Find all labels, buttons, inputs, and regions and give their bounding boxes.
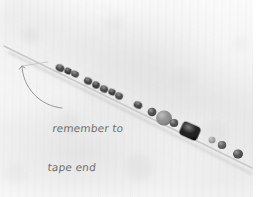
photo-canvas: remember to tape end	[0, 0, 261, 197]
bead-14	[209, 137, 216, 143]
bead-4	[83, 76, 94, 86]
bead-5	[91, 80, 101, 89]
bead-16	[233, 149, 243, 158]
bead-3	[70, 69, 80, 78]
bead-12	[170, 119, 178, 127]
annotation-line-2: tape end	[47, 161, 145, 174]
annotation-line-1: remember to	[52, 122, 150, 135]
bead-15	[218, 141, 226, 149]
bead-11	[156, 111, 172, 126]
handwritten-annotation: remember to tape end	[44, 96, 153, 197]
